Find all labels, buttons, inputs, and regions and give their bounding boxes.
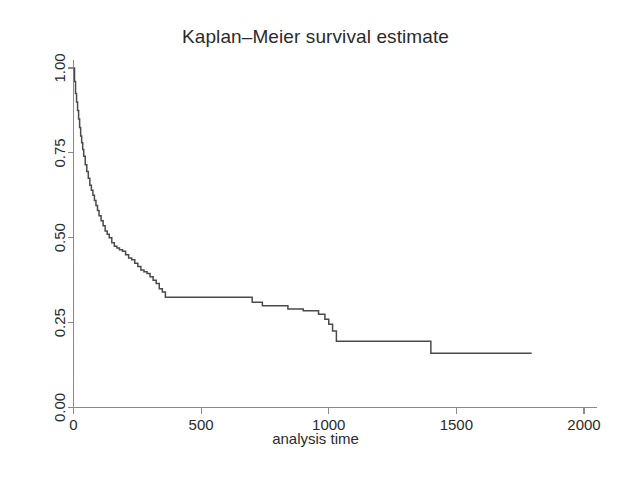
x-axis-title-wrap: analysis time [0,430,631,448]
survival-curve [74,68,532,353]
y-axis-tick-labels: 0.000.250.500.751.00 [51,53,68,422]
kaplan-meier-figure: Kaplan–Meier survival estimate 0.000.250… [0,0,631,490]
y-tick-label: 1.00 [51,53,68,82]
x-axis-ticks [74,408,585,414]
chart-plot-area: 0.000.250.500.751.00 0500100015002000 [0,0,631,490]
y-tick-label: 0.00 [51,393,68,422]
y-tick-label: 0.25 [51,308,68,337]
y-tick-label: 0.50 [51,223,68,252]
x-axis-title: analysis time [272,430,359,447]
y-tick-label: 0.75 [51,138,68,167]
